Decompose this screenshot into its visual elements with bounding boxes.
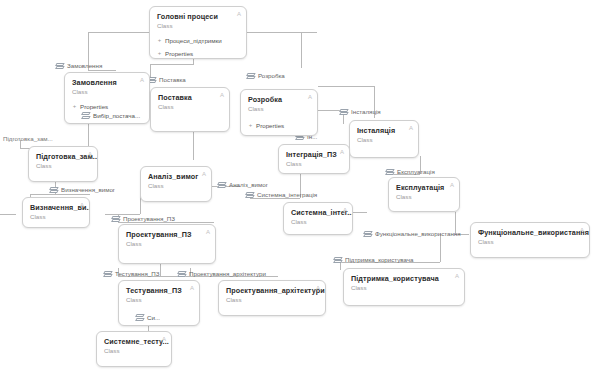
tag-systemna-integraciya[interactable]: Системна_інтеграція bbox=[246, 191, 317, 199]
class-node-pidgotovka-zamovlennya[interactable]: A Підготовка_зам... Class bbox=[28, 146, 98, 182]
class-stereotype: Class bbox=[157, 22, 239, 30]
link-icon bbox=[136, 314, 144, 321]
tag-proektuvannya-pz[interactable]: Проектування_ПЗ bbox=[112, 215, 175, 223]
member-label: Вибір_постача... bbox=[93, 111, 140, 120]
class-node-testuvannya-pz[interactable]: A Тестування_ПЗ Class Си... bbox=[118, 280, 200, 326]
class-node-golovni-procesy[interactable]: A Головні процеси Class + Процеси_підтри… bbox=[149, 6, 247, 59]
tag-pidgotovka-zamovlennya[interactable]: Підготовка_зам... bbox=[3, 135, 53, 143]
class-node-analiz-vymog[interactable]: A Аналіз_вимог Class bbox=[140, 166, 212, 202]
class-node-ekspluataciya[interactable]: A Експлуатація Class bbox=[388, 177, 460, 212]
link-icon bbox=[178, 271, 186, 278]
connector-line bbox=[88, 32, 150, 33]
member-bullet: + bbox=[157, 36, 162, 45]
tag-label: Підтримка_користувача bbox=[345, 256, 414, 264]
class-node-pidtrymka-korystuvacha[interactable]: A Підтримка_користувача Class bbox=[343, 268, 465, 306]
class-stereotype: Class bbox=[248, 105, 310, 113]
class-member[interactable]: Си... bbox=[126, 313, 192, 322]
class-member[interactable]: + Процеси_підтримки bbox=[157, 36, 239, 45]
class-members: Си... bbox=[126, 313, 192, 322]
node-corner-handle[interactable]: A bbox=[343, 207, 347, 213]
class-node-zamovlennya[interactable]: A Замовлення Class + Properties Вибір_по… bbox=[64, 72, 150, 124]
link-icon bbox=[112, 216, 120, 223]
class-title: Інсталяція bbox=[357, 126, 411, 135]
tag-label: Підготовка_зам... bbox=[3, 135, 53, 143]
tag-analiz-vymog[interactable]: Аналіз_вимог bbox=[218, 181, 268, 189]
class-stereotype: Class bbox=[351, 284, 457, 292]
class-node-integraciya-pz[interactable]: A Інтеграція_ПЗ Class bbox=[278, 144, 350, 174]
node-corner-handle[interactable]: A bbox=[450, 182, 454, 188]
node-corner-handle[interactable]: A bbox=[140, 77, 144, 83]
tag-instalyaciya[interactable]: Інсталяція bbox=[340, 108, 381, 116]
node-corner-handle[interactable]: A bbox=[206, 229, 210, 235]
tag-label: Функціональне_використання bbox=[375, 230, 461, 238]
tag-label: Інсталяція bbox=[351, 108, 381, 116]
class-stereotype: Class bbox=[291, 218, 345, 226]
tag-zamovlennya[interactable]: Замовлення bbox=[56, 62, 102, 70]
tag-label: Системна_інтеграція bbox=[257, 191, 317, 199]
class-node-proektuvannya-arhitektury[interactable]: A Проектування_архітектури Class bbox=[218, 280, 326, 316]
node-corner-handle[interactable]: A bbox=[455, 273, 459, 279]
tag-label: Проектування_архітектури bbox=[189, 270, 266, 278]
node-corner-handle[interactable]: A bbox=[308, 94, 312, 100]
connector-line bbox=[88, 120, 89, 148]
tag-rozrobka[interactable]: Розробка bbox=[247, 72, 285, 80]
class-node-systemne-testuvannya[interactable]: A Системне_тесту... Class bbox=[96, 331, 172, 367]
tag-label: Замовлення bbox=[67, 62, 102, 70]
class-title: Аналіз_вимог bbox=[148, 172, 204, 181]
link-icon bbox=[340, 109, 348, 116]
node-corner-handle[interactable]: A bbox=[190, 285, 194, 291]
link-icon bbox=[56, 63, 64, 70]
diagram-canvas[interactable]: Замовлення Поставка Розробка Інсталяція … bbox=[0, 0, 612, 378]
class-node-instalyaciya[interactable]: A Інсталяція Class bbox=[349, 120, 419, 158]
class-title: Головні процеси bbox=[157, 12, 239, 21]
tag-label: Розробка bbox=[258, 72, 285, 80]
class-title: Експлуатація bbox=[396, 183, 452, 192]
class-node-funkcionalne-vykorystannya[interactable]: A Функціональне_використання Class bbox=[470, 222, 590, 258]
class-node-rozrobka[interactable]: A Розробка Class + Properties bbox=[240, 89, 318, 136]
class-member[interactable]: + Properties bbox=[157, 49, 239, 58]
link-icon bbox=[82, 112, 90, 119]
node-corner-handle[interactable]: A bbox=[409, 125, 413, 131]
tag-ekspluataciya[interactable]: Експлуатація bbox=[386, 168, 435, 176]
connector-line bbox=[318, 86, 374, 87]
node-corner-handle[interactable]: A bbox=[340, 149, 344, 155]
class-title: Підготовка_зам... bbox=[36, 152, 90, 161]
node-corner-handle[interactable]: A bbox=[202, 171, 206, 177]
connector-line bbox=[440, 234, 441, 262]
tag-postavka[interactable]: Поставка bbox=[148, 76, 186, 84]
class-member[interactable]: Вибір_постача... bbox=[72, 111, 142, 120]
tag-funkcionalne-vykorystannya[interactable]: Функціональне_використання bbox=[364, 230, 461, 238]
link-icon bbox=[386, 169, 394, 176]
class-members: + Properties Вибір_постача... bbox=[72, 102, 142, 120]
class-node-proektuvannya-pz[interactable]: A Проектування_ПЗ Class bbox=[118, 224, 216, 264]
node-corner-handle[interactable]: A bbox=[220, 92, 224, 98]
node-corner-handle[interactable]: A bbox=[580, 227, 584, 233]
class-stereotype: Class bbox=[126, 296, 192, 304]
class-node-postavka[interactable]: A Поставка Class bbox=[150, 87, 230, 132]
class-members: + Properties bbox=[248, 121, 310, 130]
class-stereotype: Class bbox=[478, 238, 582, 246]
class-title: Функціональне_використання bbox=[478, 228, 582, 237]
tag-proektuvannya-arhitektury[interactable]: Проектування_архітектури bbox=[178, 270, 266, 278]
link-icon bbox=[247, 73, 255, 80]
class-title: Системне_тесту... bbox=[104, 337, 164, 346]
class-stereotype: Class bbox=[30, 213, 82, 221]
class-member[interactable]: + Properties bbox=[248, 121, 310, 130]
tag-pidtrymka-korystuvacha[interactable]: Підтримка_користувача bbox=[334, 256, 414, 264]
class-node-systemna-integraciya[interactable]: A Системна_інтег... Class bbox=[283, 202, 353, 235]
class-title: Замовлення bbox=[72, 78, 142, 87]
node-corner-handle[interactable]: A bbox=[316, 285, 320, 291]
class-title: Інтеграція_ПЗ bbox=[286, 150, 342, 159]
tag-label: Поставка bbox=[159, 76, 186, 84]
tag-testuvannya-pz[interactable]: Тестування_ПЗ bbox=[104, 270, 159, 278]
node-corner-handle[interactable]: A bbox=[88, 151, 92, 157]
class-stereotype: Class bbox=[72, 88, 142, 96]
node-corner-handle[interactable]: A bbox=[162, 336, 166, 342]
class-node-vyznachennya-vymog[interactable]: A Визначення_ви... Class bbox=[22, 197, 90, 228]
tag-vyznachennya-vymog[interactable]: Визначення_вимог bbox=[50, 186, 115, 194]
node-corner-handle[interactable]: A bbox=[80, 202, 84, 208]
node-corner-handle[interactable]: A bbox=[237, 11, 241, 17]
class-stereotype: Class bbox=[148, 182, 204, 190]
class-stereotype: Class bbox=[126, 240, 208, 248]
class-member[interactable]: + Properties bbox=[72, 102, 142, 111]
